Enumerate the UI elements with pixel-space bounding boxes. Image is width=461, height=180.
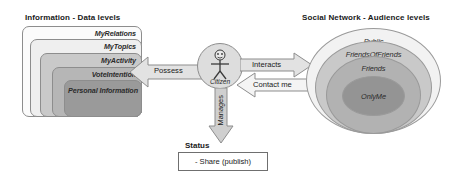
audience-level-label: OnlyMe bbox=[343, 92, 404, 101]
status-items: - Share (publish) bbox=[179, 153, 267, 170]
status-title: Status bbox=[185, 141, 209, 150]
arrow-interacts-label: Interacts bbox=[252, 60, 281, 69]
data-levels-group: MyRelations MyTopics MyActivity VoteInte… bbox=[22, 26, 142, 117]
audience-level-onlyme: OnlyMe bbox=[342, 76, 405, 116]
arrow-possess-label: Possess bbox=[154, 66, 183, 75]
data-level-label: MyRelations bbox=[95, 29, 136, 38]
audience-level-label: Friends bbox=[327, 64, 420, 73]
social-network-section-title: Social Network - Audience levels bbox=[302, 13, 430, 22]
status-box: - Share (publish) bbox=[178, 152, 268, 171]
information-section-title: Information - Data levels bbox=[25, 13, 120, 22]
data-level-label: MyTopics bbox=[104, 42, 136, 51]
arrow-contact-me-label: Contact me bbox=[253, 80, 292, 89]
diagram-canvas: Information - Data levels MyRelations My… bbox=[0, 0, 461, 180]
audience-levels-group: Public FriendsOfFriends Friends OnlyMe bbox=[306, 28, 441, 134]
arrow-manages-label: Manages bbox=[216, 100, 225, 126]
